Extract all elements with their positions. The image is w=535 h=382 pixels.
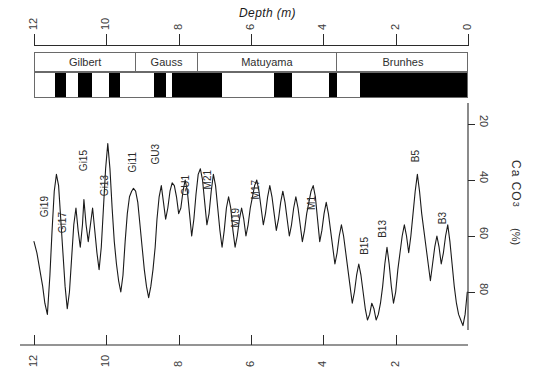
y-axis-title-subscript: 3 bbox=[511, 202, 521, 208]
bottom-axis-tick-label: 2 bbox=[390, 349, 401, 367]
bottom-axis-tick bbox=[323, 335, 324, 345]
bottom-axis-tick-label: 10 bbox=[100, 349, 111, 367]
y-axis-title: Ca CO3 bbox=[510, 160, 522, 208]
event-label-b13: B13 bbox=[378, 220, 388, 238]
bottom-axis-tick bbox=[396, 335, 397, 345]
right-axis-tick bbox=[468, 236, 475, 237]
event-label-gi13: Gi13 bbox=[100, 175, 110, 196]
bottom-axis-tick bbox=[34, 335, 35, 345]
event-label-gi17: Gi17 bbox=[58, 212, 68, 233]
bottom-axis-tick bbox=[179, 335, 180, 345]
event-label-gi15: Gi15 bbox=[79, 150, 89, 171]
y-axis-title-main: Ca CO bbox=[509, 160, 523, 202]
right-axis-tick-label: 80 bbox=[478, 283, 489, 295]
event-label-b15: B15 bbox=[360, 237, 370, 255]
bottom-axis-tick-label: 4 bbox=[317, 349, 328, 367]
figure-caco3-depth-magnetostratigraphy: Depth (m) 121086420 GilbertGaussMatuyama… bbox=[0, 0, 535, 382]
right-axis-tick-label: 40 bbox=[478, 171, 489, 183]
caco3-curve-plot bbox=[0, 0, 535, 382]
bottom-axis-tick bbox=[251, 335, 252, 345]
event-label-gi11: Gi11 bbox=[128, 152, 138, 172]
bottom-axis-tick-label: 12 bbox=[28, 349, 39, 367]
right-axis-tick-label: 60 bbox=[478, 227, 489, 239]
bottom-axis-tick bbox=[106, 335, 107, 345]
event-label-m19: M19 bbox=[231, 208, 241, 227]
event-label-m1: M1 bbox=[307, 196, 317, 210]
event-label-m21: M21 bbox=[203, 170, 213, 189]
event-label-gu1: GU1 bbox=[181, 175, 191, 196]
y-axis-units: (%) bbox=[510, 228, 521, 245]
bottom-axis-tick-label: 6 bbox=[245, 349, 256, 367]
right-axis-tick bbox=[468, 124, 475, 125]
event-label-gi19: Gi19 bbox=[40, 196, 50, 217]
right-axis-tick-label: 20 bbox=[478, 115, 489, 127]
bottom-axis-tick-label: 8 bbox=[173, 349, 184, 367]
right-axis-tick bbox=[468, 180, 475, 181]
event-label-m17: M17 bbox=[251, 180, 261, 199]
event-label-b3: B3 bbox=[438, 212, 448, 224]
caco3-curve bbox=[34, 144, 467, 326]
event-label-b5: B5 bbox=[411, 150, 421, 162]
right-axis-tick bbox=[468, 292, 475, 293]
event-label-gu3: GU3 bbox=[151, 144, 161, 165]
